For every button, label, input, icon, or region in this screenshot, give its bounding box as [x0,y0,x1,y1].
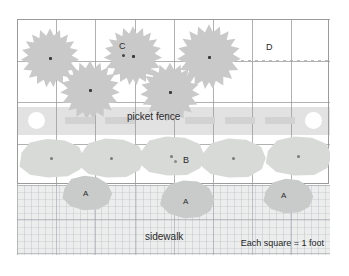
tree-center-dot-1 [49,57,52,60]
tree-center-dot-5 [208,56,211,59]
fence-post-left [28,112,45,129]
tree-center-dot-3 [132,55,135,58]
shrub-center-dot-1 [50,157,53,160]
lowplant-label-a-2: A [183,197,188,206]
lowplant-3[interactable] [260,176,316,216]
shrub-label-b-dot [174,160,177,163]
fence-picket-4 [225,117,255,124]
empty-cell-label-d: D [266,42,273,52]
garden-plan: C D picket fence [17,19,330,255]
fence-picket-3 [185,117,215,124]
shrub-4[interactable] [197,137,269,179]
tree-label-c: C [119,41,126,51]
shrub-label-b: B [183,155,189,165]
fence-picket-5 [265,117,295,124]
sidewalk-label: sidewalk [145,231,183,242]
lowplant-label-a-3: A [281,191,286,200]
shrub-center-dot-2 [110,157,113,160]
lowplant-label-a-1: A [83,189,88,198]
shrub-center-dot-5 [297,155,300,158]
tree-center-dot-4 [169,91,172,94]
shrub-center-dot-3 [170,155,173,158]
tree-canopy-5[interactable] [175,23,243,91]
tree-label-c-dot [122,54,125,57]
diagram-canvas: C D picket fence [0,0,349,276]
fence-label: picket fence [127,111,180,122]
scale-legend: Each square = 1 foot [241,238,324,248]
fence-post-right [305,112,322,129]
shrub-5[interactable] [260,135,330,177]
fence-picket-1 [65,117,95,124]
shrub-center-dot-4 [232,157,235,160]
tree-center-dot-2 [89,89,92,92]
